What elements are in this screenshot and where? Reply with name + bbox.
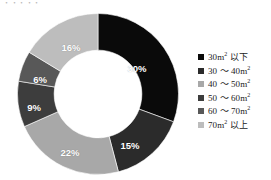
slice-percent-label-5: 6% xyxy=(33,75,47,85)
legend-label-3: 40 ～ 50m2 xyxy=(208,78,250,90)
donut-slice-3[interactable] xyxy=(24,112,118,175)
legend-item-2[interactable]: 30 ～ 40m2 xyxy=(198,65,271,79)
donut-slice-2[interactable] xyxy=(109,109,173,172)
chart-legend: 30m2 以下30 ～ 40m240 ～ 50m250 ～ 60m260 ～ 7… xyxy=(198,51,271,133)
legend-label-2: 30 ～ 40m2 xyxy=(208,65,250,77)
legend-swatch-40-50 xyxy=(198,81,204,87)
legend-label-4: 50 ～ 60m2 xyxy=(208,92,250,104)
legend-swatch-70-over xyxy=(198,122,204,128)
legend-item-5[interactable]: 60 ～ 70m2 xyxy=(198,105,271,119)
slice-percent-label-1: 30% xyxy=(127,64,146,74)
legend-unit-superscript-6: 2 xyxy=(224,119,227,125)
legend-swatch-30-under xyxy=(198,54,204,60)
legend-item-6[interactable]: 70m2 以上 xyxy=(198,119,271,133)
legend-unit-superscript-5: 2 xyxy=(247,105,250,111)
legend-unit-superscript-3: 2 xyxy=(247,78,250,84)
slice-percent-label-2: 15% xyxy=(120,141,139,151)
legend-swatch-60-70 xyxy=(198,108,204,114)
legend-unit-superscript-4: 2 xyxy=(247,92,250,98)
donut-chart: 30%15%22%9%6%16% xyxy=(8,11,188,177)
donut-chart-graphic xyxy=(17,13,179,175)
legend-label-5: 60 ～ 70m2 xyxy=(208,105,250,117)
slice-percent-label-6: 16% xyxy=(61,43,80,53)
legend-item-3[interactable]: 40 ～ 50m2 xyxy=(198,78,271,92)
slice-percent-label-4: 9% xyxy=(27,103,41,113)
slice-percent-label-3: 22% xyxy=(60,148,79,158)
donut-chart-svg xyxy=(17,13,179,175)
legend-item-1[interactable]: 30m2 以下 xyxy=(198,51,271,65)
legend-swatch-30-40 xyxy=(198,68,204,74)
legend-item-4[interactable]: 50 ～ 60m2 xyxy=(198,92,271,106)
legend-swatch-50-60 xyxy=(198,95,204,101)
legend-label-6: 70m2 以上 xyxy=(208,119,248,131)
legend-unit-superscript-2: 2 xyxy=(247,65,250,71)
truncated-title-fragment: ・・・・・ xyxy=(3,0,63,5)
legend-unit-superscript-1: 2 xyxy=(224,51,227,57)
legend-label-1: 30m2 以下 xyxy=(208,51,248,63)
